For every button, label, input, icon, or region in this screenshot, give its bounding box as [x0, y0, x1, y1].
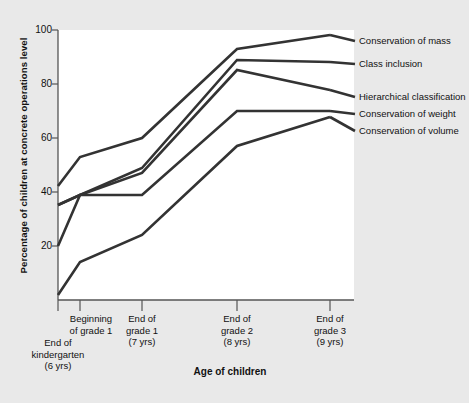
x-tick-label-line-1: End of: [295, 313, 365, 325]
x-tick-label-line-3: (6 yrs): [8, 360, 108, 372]
x-tick-label-line-2: kindergarten: [8, 349, 108, 361]
x-tick-label-line-3: (8 yrs): [202, 336, 272, 348]
x-tick-label-line-2: grade 1: [107, 325, 177, 337]
x-axis-title: Age of children: [160, 366, 300, 377]
x-tick-label-end-of-grade-2: End of grade 2 (8 yrs): [202, 313, 272, 348]
x-tick-label-line-1: End of: [202, 313, 272, 325]
x-tick-label-end-of-grade-1: End of grade 1 (7 yrs): [107, 313, 177, 348]
x-tick-label-line-2: grade 2: [202, 325, 272, 337]
x-tick-label-end-of-kindergarten: End of kindergarten (6 yrs): [8, 337, 108, 372]
legend-item-class-inclusion: Class inclusion: [359, 58, 422, 69]
x-tick-label-line-2: grade 3: [295, 325, 365, 337]
legend-item-conservation-of-volume: Conservation of volume: [359, 125, 459, 136]
x-tick-label-end-of-grade-3: End of grade 3 (9 yrs): [295, 313, 365, 348]
legend-item-hierarchical-classification: Hierarchical classification: [359, 91, 466, 102]
x-tick-label-line-3: (9 yrs): [295, 336, 365, 348]
legend-item-conservation-of-weight: Conservation of weight: [359, 108, 456, 119]
x-tick-label-line-1: End of: [107, 313, 177, 325]
legend-item-conservation-of-mass: Conservation of mass: [359, 35, 451, 46]
x-tick-label-line-1: End of: [8, 337, 108, 349]
chart-figure: Percentage of children at concrete opera…: [0, 0, 469, 403]
plot-background: [58, 30, 354, 300]
x-tick-label-line-3: (7 yrs): [107, 336, 177, 348]
